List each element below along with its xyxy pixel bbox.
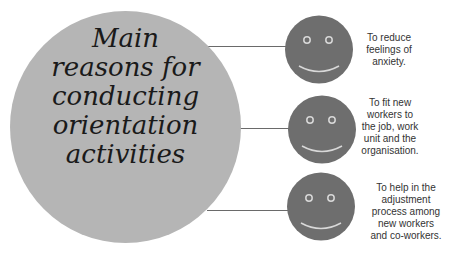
reason-line: workers to [357,109,423,121]
title-line: conducting [10,82,241,111]
title-line: reasons for [10,53,241,82]
reason-line: adjustment [367,194,445,206]
smiley-face-icon [287,172,355,241]
reason-line: To reduce [358,32,420,44]
main-topic-title: Main reasons for conducting orientation … [10,24,241,169]
title-line: Main [10,24,241,53]
reason-line: new workers [367,218,445,230]
reason-line: feelings of [358,44,420,56]
reason-line: unit and the [357,133,423,145]
reason-line: the job, work [357,121,423,133]
smiley-face-icon [288,95,356,164]
title-line: orientation [10,111,241,140]
reason-line: and co-workers. [367,230,445,242]
diagram-canvas: Main reasons for conducting orientation … [0,0,455,265]
reason-line: anxiety. [358,56,420,68]
reason-line: To help in the [367,182,445,194]
connector-line-3 [207,210,288,211]
smiley-face-icon [285,15,353,84]
reason-text-3: To help in the adjustment process among … [367,182,445,242]
title-line: activities [10,140,241,169]
reason-text-2: To fit new workers to the job, work unit… [357,97,423,157]
reason-line: organisation. [357,145,423,157]
reason-text-1: To reduce feelings of anxiety. [358,32,420,68]
reason-line: To fit new [357,97,423,109]
reason-line: process among [367,206,445,218]
connector-line-2 [238,128,289,129]
